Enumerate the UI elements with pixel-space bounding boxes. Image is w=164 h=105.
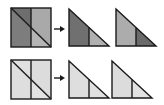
diagram-canvas <box>0 0 164 105</box>
right-triangle-b <box>116 9 156 46</box>
triangle-b-left-piece <box>116 9 136 46</box>
bottom-row <box>11 60 152 99</box>
split-square <box>11 60 51 99</box>
arrow-head <box>60 75 65 81</box>
right-triangle-a <box>69 61 109 98</box>
right-arrow-icon <box>54 75 65 81</box>
diagram-svg <box>0 0 164 105</box>
right-triangle-b <box>112 61 152 98</box>
arrow-head <box>60 26 65 32</box>
split-square <box>11 8 51 47</box>
right-arrow-icon <box>54 26 65 32</box>
right-triangle-a <box>69 9 109 46</box>
triangle-a-left-piece <box>69 9 89 46</box>
triangle-b-left-piece <box>112 61 132 98</box>
top-row <box>11 8 156 47</box>
triangle-a-left-piece <box>69 61 89 98</box>
